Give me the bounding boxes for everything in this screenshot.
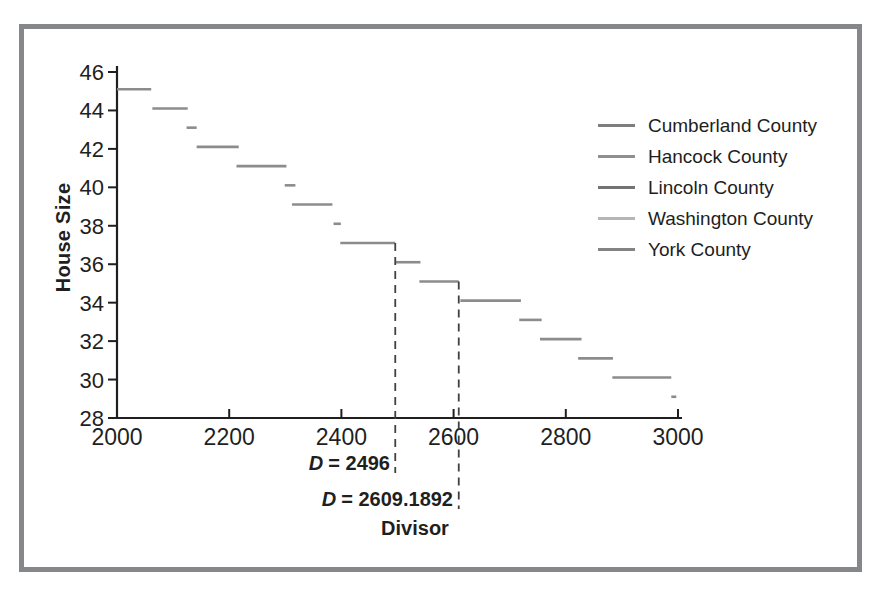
legend-item-hancock-county: Hancock County xyxy=(598,141,817,172)
x-axis-title: Divisor xyxy=(340,517,490,540)
legend-label: Washington County xyxy=(648,208,813,230)
annotation-2-symbol: D xyxy=(322,488,336,510)
legend-line-icon xyxy=(598,124,635,127)
legend-item-lincoln-county: Lincoln County xyxy=(598,172,817,203)
legend-label: York County xyxy=(648,239,751,261)
legend-line-icon xyxy=(598,248,635,251)
legend-label: Hancock County xyxy=(648,146,787,168)
legend: Cumberland County Hancock County Lincoln… xyxy=(598,110,817,265)
annotation-1-value: = 2496 xyxy=(328,452,390,474)
annotation-2-value: = 2609.1892 xyxy=(341,488,453,510)
legend-item-washington-county: Washington County xyxy=(598,203,817,234)
legend-item-cumberland-county: Cumberland County xyxy=(598,110,817,141)
legend-item-york-county: York County xyxy=(598,234,817,265)
legend-label: Lincoln County xyxy=(648,177,774,199)
legend-line-icon xyxy=(598,155,635,158)
legend-label: Cumberland County xyxy=(648,115,817,137)
divisor-annotation-2: D= 2609.1892 xyxy=(322,488,453,511)
divisor-annotation-1: D= 2496 xyxy=(309,452,390,475)
annotation-1-symbol: D xyxy=(309,452,323,474)
legend-line-icon xyxy=(598,217,635,220)
y-axis-title: House Size xyxy=(52,163,75,313)
legend-line-icon xyxy=(598,186,635,189)
